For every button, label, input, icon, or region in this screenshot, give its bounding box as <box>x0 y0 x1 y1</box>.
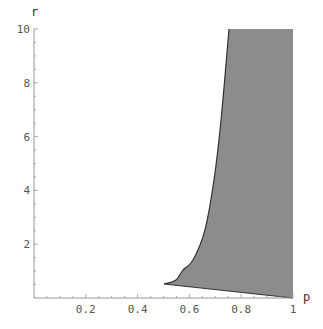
y-tick-label: 2 <box>23 238 30 251</box>
x-tick-label: 0.8 <box>231 303 251 316</box>
x-tick-label: 1 <box>290 303 297 316</box>
y-tick-label: 4 <box>23 184 30 197</box>
x-tick-label: 0.2 <box>76 303 96 316</box>
y-axis-label: r <box>31 5 38 19</box>
region-layer <box>164 29 293 298</box>
shaded-region <box>164 29 293 298</box>
y-tick-label: 6 <box>23 131 30 144</box>
x-tick-label: 0.6 <box>179 303 199 316</box>
x-tick-label: 0.4 <box>128 303 148 316</box>
y-tick-label: 8 <box>23 77 30 90</box>
y-tick-label: 10 <box>17 23 30 36</box>
region-plot: 0.20.40.60.81246810 p r <box>0 0 323 329</box>
x-axis-label: p <box>303 290 310 304</box>
